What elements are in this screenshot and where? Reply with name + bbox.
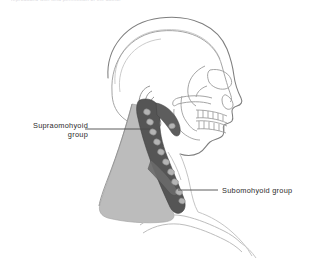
- zygomatic-arch: [173, 96, 212, 106]
- subomohyoid-group-label: Subomohyoid group: [222, 186, 292, 195]
- supraomohyoid-label-line2: group: [68, 130, 88, 139]
- inner-cranial-vault-line: [115, 30, 220, 92]
- supraomohyoid-label-line1: Supraomohyoid: [33, 121, 88, 130]
- shoulder-contour: [198, 212, 256, 258]
- subomohyoid-label-line1: Subomohyoid group: [222, 186, 292, 195]
- supraomohyoid-group-label: Supraomohyoid group: [14, 121, 88, 140]
